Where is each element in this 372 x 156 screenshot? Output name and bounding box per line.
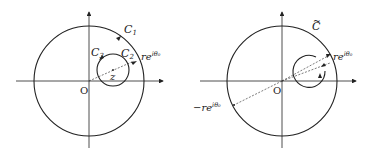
c3-label: C3 <box>91 46 104 60</box>
c1-arrow-icon <box>116 36 121 41</box>
left-diagram: C1 C2 C3 z O reiθ₀ <box>16 12 163 148</box>
z-label: z <box>109 71 116 82</box>
c1-label: C1 <box>124 23 137 37</box>
right-diagram: C ~ O reiθ₀ −reiθ₀ <box>193 12 356 148</box>
keyhole-upper-arrow-icon <box>326 54 331 58</box>
neg-ray-point <box>233 104 235 106</box>
c2-label: C2 <box>121 47 134 61</box>
c2-arrow-icon <box>131 61 137 65</box>
keyhole-arc-arrow-icon <box>318 73 322 78</box>
left-ray-label: reiθ₀ <box>141 50 161 62</box>
right-ray-label: reiθ₀ <box>333 50 353 62</box>
keyhole-lower-arrow-icon <box>321 63 326 67</box>
neg-ray-label: −reiθ₀ <box>193 101 221 113</box>
diagram-canvas: C1 C2 C3 z O reiθ₀ C ~ O reiθ₀ −reiθ₀ <box>0 0 372 156</box>
right-origin-label: O <box>273 85 281 96</box>
left-origin-label: O <box>80 85 88 96</box>
tilde-mark: ~ <box>313 16 321 26</box>
